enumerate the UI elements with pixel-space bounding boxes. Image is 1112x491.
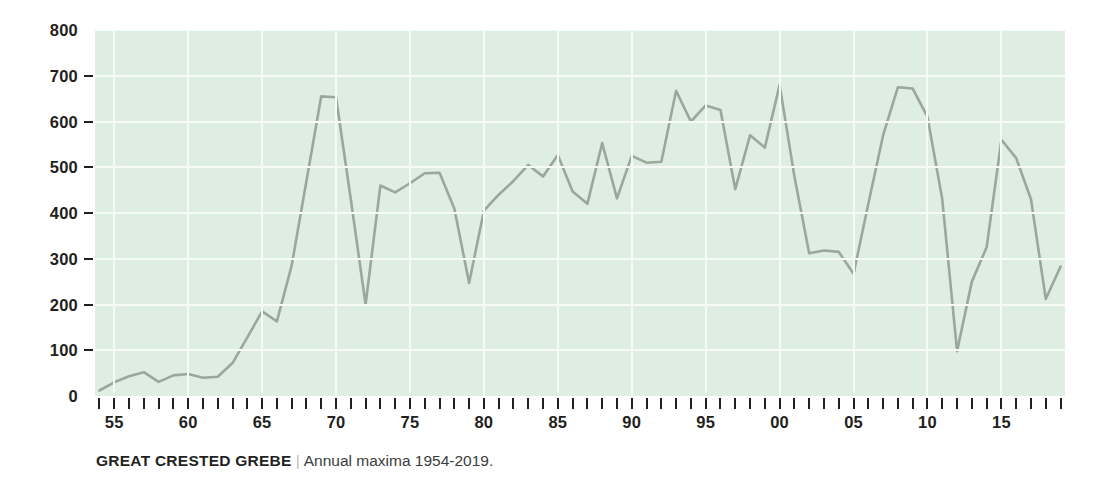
x-axis-tick-mark [335, 398, 337, 409]
x-axis-tick-mark [468, 398, 470, 409]
y-axis-tick-label: 0 [34, 387, 78, 406]
x-axis-tick-mark [734, 398, 736, 409]
y-axis: 0100200300400500600700800 [34, 0, 78, 491]
gridline-horizontal [95, 349, 1065, 351]
x-axis-tick-label: 15 [992, 413, 1011, 432]
x-axis-tick-mark [542, 398, 544, 409]
x-axis-tick-mark [498, 398, 500, 409]
x-axis-tick-label: 00 [770, 413, 789, 432]
x-axis-tick-mark [926, 398, 928, 409]
x-axis-tick-mark [956, 398, 958, 409]
y-axis-tick-label: 400 [34, 204, 78, 223]
x-axis-tick-mark [246, 398, 248, 409]
x-axis-tick-mark [1060, 398, 1062, 409]
x-axis-tick-mark [158, 398, 160, 409]
x-axis-tick-mark [483, 398, 485, 409]
x-axis-tick-label: 75 [401, 413, 420, 432]
x-axis-tick-label: 10 [918, 413, 937, 432]
caption-title: GREAT CRESTED GREBE [96, 452, 292, 469]
x-axis-tick-label: 90 [622, 413, 641, 432]
x-axis-tick-mark [749, 398, 751, 409]
x-axis-tick-mark [705, 398, 707, 409]
x-axis-tick-mark [912, 398, 914, 409]
gridline-vertical [335, 30, 337, 396]
y-axis-tick-label: 300 [34, 249, 78, 268]
x-axis-tick-label: 65 [253, 413, 272, 432]
x-axis-tick-mark [1015, 398, 1017, 409]
x-axis-tick-mark [586, 398, 588, 409]
y-axis-tick-label: 200 [34, 295, 78, 314]
gridline-vertical [705, 30, 707, 396]
y-axis-tick-label: 600 [34, 112, 78, 131]
gridline-vertical [1000, 30, 1002, 396]
y-axis-tick-mark [84, 212, 93, 214]
x-axis-tick-mark [882, 398, 884, 409]
x-axis-tick-mark [276, 398, 278, 409]
x-axis-tick-label: 85 [548, 413, 567, 432]
x-axis-tick-mark [379, 398, 381, 409]
y-axis-tick-mark [84, 349, 93, 351]
x-axis-tick-mark [853, 398, 855, 409]
x-axis-tick-label: 70 [327, 413, 346, 432]
y-axis-tick-label: 800 [34, 21, 78, 40]
x-axis-tick-mark [128, 398, 130, 409]
gridline-horizontal [95, 304, 1065, 306]
x-axis-tick-mark [261, 398, 263, 409]
gridline-vertical [261, 30, 263, 396]
x-axis-tick-mark [202, 398, 204, 409]
caption-subtitle: Annual maxima 1954-2019. [304, 452, 494, 469]
x-axis-tick-mark [660, 398, 662, 409]
x-axis-tick-mark [527, 398, 529, 409]
x-axis-tick-mark [941, 398, 943, 409]
x-axis-tick-mark [557, 398, 559, 409]
x-axis-tick-label: 95 [696, 413, 715, 432]
x-axis-tick-mark [113, 398, 115, 409]
y-axis-tick-label: 700 [34, 66, 78, 85]
x-axis-tick-mark [1030, 398, 1032, 409]
x-axis-tick-mark [646, 398, 648, 409]
gridline-vertical [853, 30, 855, 396]
x-axis-tick-mark [986, 398, 988, 409]
x-axis-tick-mark [98, 398, 100, 409]
x-axis-tick-mark [572, 398, 574, 409]
x-axis-tick-label: 05 [844, 413, 863, 432]
gridline-vertical [113, 30, 115, 396]
x-axis-tick-mark [808, 398, 810, 409]
x-axis-tick-mark [616, 398, 618, 409]
x-axis-tick-mark [823, 398, 825, 409]
x-axis-tick-mark [838, 398, 840, 409]
x-axis-tick-mark [897, 398, 899, 409]
x-axis-tick-mark [305, 398, 307, 409]
x-axis-tick-mark [320, 398, 322, 409]
gridline-vertical [409, 30, 411, 396]
y-axis-tick-mark [84, 75, 93, 77]
gridline-horizontal [95, 212, 1065, 214]
x-axis-tick-mark [971, 398, 973, 409]
x-axis-tick-mark [350, 398, 352, 409]
caption: GREAT CRESTED GREBE|Annual maxima 1954-2… [96, 452, 493, 470]
x-axis-tick-mark [512, 398, 514, 409]
caption-separator: | [292, 452, 304, 469]
gridline-horizontal [95, 121, 1065, 123]
gridline-vertical [557, 30, 559, 396]
gridline-vertical [187, 30, 189, 396]
x-axis-tick-mark [409, 398, 411, 409]
gridline-horizontal [95, 75, 1065, 77]
gridline-horizontal [95, 166, 1065, 168]
x-axis-tick-mark [631, 398, 633, 409]
x-axis-tick-label: 60 [179, 413, 198, 432]
gridline-vertical [483, 30, 485, 396]
x-axis-tick-mark [1045, 398, 1047, 409]
gridline-vertical [631, 30, 633, 396]
x-axis-tick-mark [424, 398, 426, 409]
x-axis-tick-mark [187, 398, 189, 409]
data-line [99, 85, 1060, 391]
x-axis-tick-mark [1000, 398, 1002, 409]
y-axis-tick-label: 100 [34, 341, 78, 360]
x-axis-tick-label: 55 [105, 413, 124, 432]
gridline-horizontal [95, 258, 1065, 260]
x-axis-tick-mark [793, 398, 795, 409]
x-axis-tick-mark [719, 398, 721, 409]
x-axis-tick-mark [365, 398, 367, 409]
x-axis-tick-mark [601, 398, 603, 409]
